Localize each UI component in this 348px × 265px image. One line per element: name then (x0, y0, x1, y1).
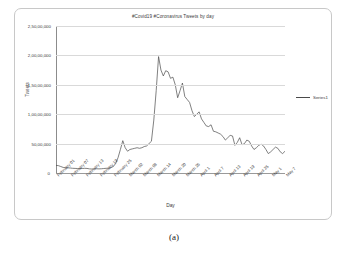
y-tick-label: 2,00,00,000 (28, 53, 51, 58)
y-tick-label: 1,00,00,000 (28, 112, 51, 117)
gridline (56, 55, 285, 56)
gridline (56, 144, 285, 145)
gridline (56, 114, 285, 115)
legend-label-series1: Series1 (313, 95, 328, 100)
plot-area (56, 26, 285, 173)
x-axis-title: Day (56, 203, 285, 208)
gridline (56, 85, 285, 86)
chart-title: #Covid19 #Coronavirus Tweets by day (15, 14, 331, 19)
gridline (56, 26, 285, 27)
y-axis-title: Tweets (25, 70, 30, 110)
figure-caption: (a) (0, 232, 348, 242)
y-tick-label: 50,00,000 (31, 141, 51, 146)
y-axis-tick-labels: 2,50,00,0002,00,00,0001,50,00,0001,00,00… (15, 21, 54, 178)
y-tick-label: 1,50,00,000 (28, 82, 51, 87)
x-tick-label: May 7 (285, 166, 297, 178)
chart-figure: #Covid19 #Coronavirus Tweets by day 2,50… (14, 8, 332, 220)
legend-swatch-series1 (296, 97, 310, 98)
chart-legend: Series1 (296, 95, 328, 100)
y-tick-label: 0 (48, 171, 50, 176)
gridlines (56, 26, 285, 173)
x-axis-tick-labels: February 01February 07February 13Februar… (56, 174, 285, 204)
y-tick-label: 2,50,00,000 (28, 24, 51, 29)
